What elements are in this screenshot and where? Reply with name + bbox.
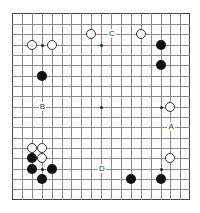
white-stone [165, 102, 175, 112]
grid-line-vertical [141, 13, 142, 200]
black-stone [47, 164, 57, 174]
white-stone [165, 153, 175, 163]
point-label-d: D [98, 164, 106, 173]
star-point [160, 168, 163, 171]
point-label-c: C [108, 29, 116, 38]
white-stone [27, 143, 37, 153]
grid-line-vertical [131, 13, 132, 200]
white-stone [37, 153, 47, 163]
grid-line-vertical [180, 13, 181, 200]
star-point [100, 44, 103, 47]
grid-line-horizontal [12, 189, 190, 190]
star-point [41, 168, 44, 171]
grid-line-vertical [151, 13, 152, 200]
grid-line-vertical [121, 13, 122, 200]
black-stone [37, 174, 47, 184]
black-stone [27, 153, 37, 163]
black-stone [156, 174, 166, 184]
white-stone [86, 29, 96, 39]
black-stone [156, 60, 166, 70]
black-stone [37, 71, 47, 81]
star-point [41, 44, 44, 47]
white-stone [47, 40, 57, 50]
point-label-a: A [167, 122, 174, 131]
grid-line-horizontal [12, 117, 190, 118]
white-stone [37, 143, 47, 153]
black-stone [126, 174, 136, 184]
white-stone [136, 29, 146, 39]
black-stone [27, 164, 37, 174]
white-stone [27, 40, 37, 50]
star-point [100, 106, 103, 109]
black-stone [156, 40, 166, 50]
point-label-b: B [39, 102, 46, 111]
grid-line-vertical [111, 13, 112, 200]
star-point [160, 106, 163, 109]
grid-line-horizontal [12, 138, 190, 139]
grid-line-horizontal [12, 127, 190, 128]
